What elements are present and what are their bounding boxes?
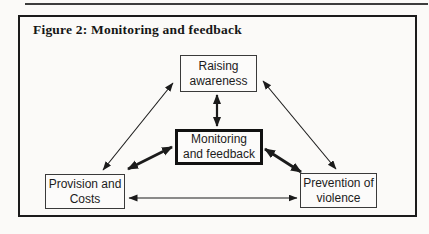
- node-monitoring-feedback-label-line1: Monitoring: [191, 132, 247, 147]
- edge-monitoring-prevention: [265, 149, 301, 172]
- node-provision-costs-label-line1: Provision and: [49, 177, 122, 192]
- node-monitoring-feedback: Monitoring and feedback: [175, 129, 263, 165]
- edge-monitoring-provision: [128, 147, 172, 169]
- node-raising-awareness-label-line1: Raising: [198, 59, 238, 74]
- edge-raising-provision: [103, 83, 173, 170]
- node-raising-awareness-label-line2: awareness: [189, 74, 247, 89]
- node-monitoring-feedback-label-line2: and feedback: [183, 147, 255, 162]
- scanned-page: Figure 2: Monitoring and feedback Raisin…: [0, 0, 429, 234]
- node-prevention-violence: Prevention of violence: [300, 173, 377, 208]
- node-provision-costs: Provision and Costs: [45, 174, 125, 209]
- node-prevention-violence-label-line2: violence: [316, 191, 360, 206]
- node-provision-costs-label-line2: Costs: [70, 192, 101, 207]
- node-prevention-violence-label-line1: Prevention of: [303, 176, 374, 191]
- node-raising-awareness: Raising awareness: [180, 55, 257, 92]
